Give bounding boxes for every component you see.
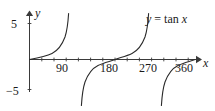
tangent-branch-1	[30, 14, 69, 60]
tangent-function-graph: 90 180 270 360 5 −5 x y y=tanx	[0, 0, 215, 111]
x-tick-label-90: 90	[56, 62, 68, 74]
equation-argument: x	[182, 12, 187, 26]
equation-lhs: y	[146, 12, 151, 26]
x-axis-label: x	[203, 57, 208, 69]
equation-function: tan	[164, 12, 179, 26]
y-tick-label-minus-5: −5	[6, 85, 19, 97]
equation-equals: =	[154, 12, 161, 26]
x-tick-label-270: 270	[139, 62, 157, 74]
x-tick-label-180: 180	[100, 62, 118, 74]
y-axis-arrowhead	[26, 11, 33, 17]
equation-annotation: y=tanx	[146, 13, 187, 25]
y-tick-label-5: 5	[11, 18, 17, 30]
y-axis-label: y	[35, 7, 40, 19]
x-axis-arrowhead	[196, 56, 202, 63]
x-tick-label-360: 360	[175, 62, 193, 74]
